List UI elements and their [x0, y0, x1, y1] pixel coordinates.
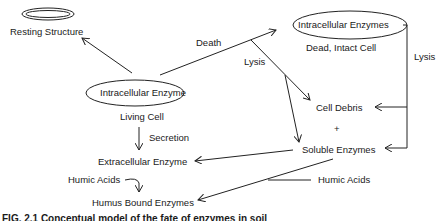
soluble-enzymes-label: Soluble Enzymes: [302, 145, 375, 155]
humic-acids-left-label: Humic Acids: [68, 175, 120, 185]
secretion-label: Secretion: [149, 133, 189, 143]
intracellular-enzymes-dead-label: Intracellular Enzymes: [298, 20, 389, 30]
death-label: Death: [196, 38, 221, 48]
dead-intact-cell-label: Dead, Intact Cell: [306, 43, 376, 53]
humus-bound-enzymes-label: Humus Bound Enzymes: [92, 198, 194, 208]
lysis-center-label: Lysis: [244, 57, 265, 67]
lysis-right-label: Lysis: [414, 52, 435, 62]
resting-structure-icon: [22, 8, 74, 20]
plus-sign: +: [334, 124, 340, 134]
cell-debris-label: Cell Debris: [316, 103, 362, 113]
extracellular-enzyme-label: Extracellular Enzyme: [98, 157, 187, 167]
living-cell-label: Living Cell: [120, 112, 164, 122]
figure-caption: FIG. 2.1 Conceptual model of the fate of…: [2, 213, 267, 221]
humic-acids-right-label: Humic Acids: [318, 175, 370, 185]
resting-structure-label: Resting Structure: [10, 27, 83, 37]
intracellular-enzyme-label: Intracellular Enzyme: [100, 88, 186, 98]
